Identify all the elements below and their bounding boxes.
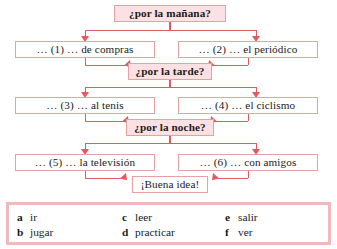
answer-choice-key: e xyxy=(225,212,238,223)
node-label: … (6) … con amigos xyxy=(200,157,297,168)
node-label: ¿por la tarde? xyxy=(136,66,205,77)
node-label: … (2) … el periódico xyxy=(199,44,298,55)
edge-o1-to-q2-run xyxy=(85,65,129,66)
answer-choice-value: salir xyxy=(238,211,258,223)
answer-choice-key: f xyxy=(225,227,238,238)
edge-o2-to-q2-run xyxy=(211,65,248,66)
edge-o6-to-end-run xyxy=(215,178,248,179)
answer-choice-value: leer xyxy=(135,211,152,223)
answer-choice-key: b xyxy=(17,227,30,238)
node-terminal-buena-idea[interactable]: ¡Buena idea! xyxy=(132,176,208,193)
node-option-6[interactable]: … (6) … con amigos xyxy=(178,154,318,171)
node-label: ¿por la noche? xyxy=(134,122,205,133)
node-label: … (1) … de compras xyxy=(37,44,134,55)
edge-o3-to-q3-run xyxy=(85,121,127,122)
node-label: ¿por la mañana? xyxy=(129,8,211,19)
node-label: ¡Buena idea! xyxy=(141,179,200,190)
node-option-3[interactable]: … (3) … al tenis xyxy=(15,97,155,114)
edge-o4-to-q3-run xyxy=(213,121,248,122)
node-option-4[interactable]: … (4) … el ciclismo xyxy=(178,97,318,114)
answer-choice-key: c xyxy=(122,212,135,223)
answer-choice-value: ir xyxy=(30,211,37,223)
node-question-noche[interactable]: ¿por la noche? xyxy=(126,119,214,136)
answer-choice-f[interactable]: fver xyxy=(225,227,253,238)
answer-choice-value: practicar xyxy=(135,226,175,238)
edge-q1-crossbar xyxy=(85,30,256,31)
node-question-manana[interactable]: ¿por la mañana? xyxy=(114,5,226,22)
answer-choice-value: ver xyxy=(238,226,253,238)
answer-choice-key: d xyxy=(122,227,135,238)
node-option-2[interactable]: … (2) … el periódico xyxy=(178,41,318,58)
answer-choice-d[interactable]: dpracticar xyxy=(122,227,175,238)
answer-choice-a[interactable]: air xyxy=(17,212,37,223)
answer-choice-value: jugar xyxy=(30,226,53,238)
answer-choice-e[interactable]: esalir xyxy=(225,212,258,223)
answer-choice-c[interactable]: cleer xyxy=(122,212,152,223)
arrowhead-o5-to-end-icon xyxy=(120,173,130,183)
arrowhead-o6-to-end-icon xyxy=(209,173,219,183)
node-question-tarde[interactable]: ¿por la tarde? xyxy=(128,63,212,80)
node-label: … (4) … el ciclismo xyxy=(201,100,296,111)
node-option-5[interactable]: … (5) … la televisión xyxy=(15,154,155,171)
node-label: … (5) … la televisión xyxy=(35,157,135,168)
answer-choices-grid: air bjugar cleer dpracticar esalir fver xyxy=(9,205,328,242)
answer-choices-box: air bjugar cleer dpracticar esalir fver xyxy=(6,202,331,245)
node-label: … (3) … al tenis xyxy=(46,100,123,111)
node-option-1[interactable]: … (1) … de compras xyxy=(15,41,155,58)
answer-choice-b[interactable]: bjugar xyxy=(17,227,53,238)
edge-q3-crossbar xyxy=(85,143,256,144)
answer-choice-key: a xyxy=(17,212,30,223)
edge-q2-crossbar xyxy=(85,87,256,88)
